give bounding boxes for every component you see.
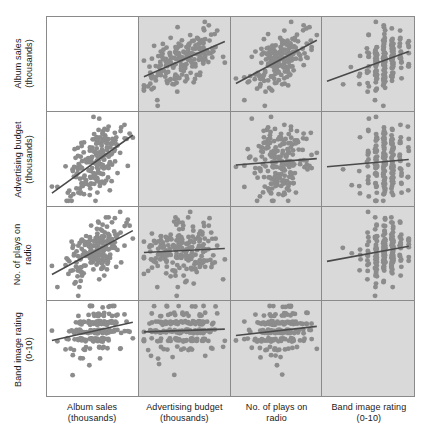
- row-label-line2: (0-10): [23, 337, 33, 362]
- data-point: [214, 28, 219, 33]
- data-point: [284, 75, 289, 80]
- data-point: [78, 356, 83, 361]
- data-point: [294, 128, 299, 133]
- panel-diagonal-advertising-budget: [139, 112, 231, 207]
- data-point: [245, 147, 250, 152]
- scatter-plot: [322, 207, 414, 301]
- data-point: [365, 46, 370, 51]
- data-point: [286, 174, 291, 179]
- data-point: [106, 305, 111, 310]
- data-point: [148, 354, 153, 359]
- data-point: [374, 222, 379, 227]
- data-point: [94, 319, 99, 324]
- data-point: [86, 321, 91, 326]
- data-point: [220, 345, 225, 350]
- data-point: [257, 84, 262, 89]
- data-point: [288, 20, 293, 25]
- data-point: [285, 320, 290, 325]
- data-point: [406, 124, 411, 129]
- data-point: [77, 328, 82, 333]
- data-point: [78, 278, 83, 283]
- data-point: [158, 314, 163, 319]
- data-point: [101, 314, 106, 319]
- data-point: [106, 214, 111, 219]
- data-point: [266, 85, 271, 90]
- data-point: [314, 33, 319, 38]
- data-point: [269, 56, 274, 61]
- data-point: [349, 183, 354, 188]
- row-label-line1: Band image rating: [13, 312, 23, 387]
- data-point: [367, 54, 372, 59]
- data-point: [374, 233, 379, 238]
- data-point: [265, 338, 270, 343]
- data-point: [309, 45, 314, 50]
- data-point: [270, 304, 275, 309]
- data-point: [141, 83, 146, 88]
- data-point: [366, 174, 371, 179]
- data-point: [102, 273, 107, 278]
- data-point: [262, 70, 267, 75]
- data-point: [309, 337, 314, 342]
- data-point: [358, 256, 363, 261]
- data-point: [267, 312, 272, 317]
- data-point: [281, 122, 286, 127]
- data-point: [112, 215, 117, 220]
- data-point: [171, 56, 176, 61]
- data-point: [110, 219, 115, 224]
- data-point: [206, 51, 211, 56]
- data-point: [83, 157, 88, 162]
- data-point: [258, 145, 263, 150]
- data-point: [249, 54, 254, 59]
- data-point: [381, 131, 386, 136]
- data-point: [305, 167, 310, 172]
- data-point: [95, 190, 100, 195]
- data-point: [279, 372, 284, 377]
- data-point: [383, 223, 388, 228]
- data-point: [300, 136, 305, 141]
- row-label-line1: Advertising budget: [13, 121, 23, 197]
- data-point: [290, 163, 295, 168]
- data-point: [300, 147, 305, 152]
- data-point: [390, 231, 395, 236]
- data-point: [252, 157, 257, 162]
- data-point: [87, 363, 92, 368]
- data-point: [373, 214, 378, 219]
- data-point: [88, 174, 93, 179]
- data-point: [285, 347, 290, 352]
- data-point: [189, 244, 194, 249]
- column-label-line2: (thousands): [46, 413, 138, 424]
- data-point: [212, 260, 217, 265]
- data-point: [398, 273, 403, 278]
- data-point: [309, 152, 314, 157]
- data-point: [179, 237, 184, 242]
- panel-advertising-budget-vs-plays-radio: [231, 112, 323, 207]
- data-point: [95, 241, 100, 246]
- panel-album-sales-vs-band-image: [322, 17, 414, 112]
- panel-diagonal-plays-radio: [231, 207, 323, 302]
- data-point: [158, 244, 163, 249]
- data-point: [266, 188, 271, 193]
- data-point: [118, 347, 123, 352]
- data-point: [191, 281, 196, 286]
- data-point: [187, 209, 192, 214]
- data-point: [174, 251, 179, 256]
- data-point: [191, 80, 196, 85]
- data-point: [279, 162, 284, 167]
- data-point: [214, 243, 219, 248]
- data-point: [199, 253, 204, 258]
- data-point: [99, 337, 104, 342]
- column-label-plays-on-radio: No. of plays on radio: [231, 400, 323, 434]
- data-point: [358, 247, 363, 252]
- data-point: [309, 321, 314, 326]
- data-point: [151, 258, 156, 263]
- data-point: [265, 168, 270, 173]
- data-point: [122, 243, 127, 248]
- data-point: [201, 56, 206, 61]
- data-point: [272, 66, 277, 71]
- data-point: [269, 198, 274, 203]
- data-point: [127, 223, 132, 228]
- data-point: [295, 330, 300, 335]
- data-point: [87, 145, 92, 150]
- data-point: [197, 320, 202, 325]
- data-point: [268, 181, 273, 186]
